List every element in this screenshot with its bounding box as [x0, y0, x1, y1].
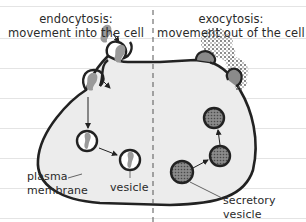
- secretory-vesicle: [210, 146, 230, 166]
- diagram-canvas: endocytosis: movement into the cell exoc…: [0, 0, 306, 222]
- secretory-vesicle: [204, 108, 224, 128]
- plasma-membrane-label-line1: plasma: [27, 170, 68, 183]
- endocytosis-title-line2: movement into the cell: [8, 26, 144, 40]
- vesicle-label: vesicle: [110, 181, 149, 195]
- exocytosis-title: exocytosis: movement out of the cell: [156, 12, 306, 40]
- exocytosis-title-line2: movement out of the cell: [157, 26, 305, 40]
- endocytosis-title-line1: endocytosis:: [39, 12, 113, 26]
- secretory-vesicle-label: secretory vesicle: [223, 194, 276, 222]
- secretory-vesicle-label-line2: vesicle: [223, 208, 262, 221]
- secretory-vesicle: [171, 161, 193, 183]
- plasma-membrane-label: plasma membrane: [27, 170, 88, 198]
- secretory-vesicle-label-line1: secretory: [223, 194, 276, 207]
- cargo-particle: [114, 45, 125, 63]
- plasma-membrane-label-line2: membrane: [27, 184, 88, 197]
- endocytosis-title: endocytosis: movement into the cell: [2, 12, 150, 40]
- exocytosis-title-line1: exocytosis:: [198, 12, 263, 26]
